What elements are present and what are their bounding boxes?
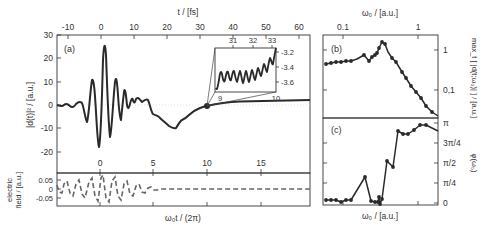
bottom-tick-label: 5: [151, 158, 156, 168]
electric-field-curve: [57, 175, 310, 202]
top-tick-label: 30: [195, 22, 205, 32]
c-right-tick-label: π/4: [443, 178, 456, 188]
phase-curve: [326, 125, 438, 204]
left-tick-label: 0: [48, 100, 53, 110]
bottom-axis-title: ω₀t / (2π): [165, 213, 201, 223]
max-dipole-curve: [326, 42, 438, 116]
field-panel-frame: [57, 173, 310, 206]
field-axis-title-line1: electric: [5, 178, 14, 202]
inset-bottom-tick: 9: [218, 94, 222, 103]
left-tick-label: 30: [44, 30, 54, 40]
top-tick-label: 50: [261, 22, 271, 32]
panel-label-c: (c): [331, 125, 342, 135]
left-tick-label: -10: [41, 123, 54, 133]
panel-a: -10 0 10 20 30 40 50 60 t / [fs] 30 20 1…: [25, 7, 310, 173]
left-axis-title: |d(t)|² / [a.u.]: [25, 82, 35, 128]
b-top-tick-label: 1: [416, 22, 421, 32]
b-top-axis-title: ω₀ / [a.u.]: [362, 8, 398, 18]
c-bottom-axis-title: ω₀ / [a.u.]: [362, 211, 398, 221]
c-right-tick-label: π/2: [443, 158, 456, 168]
panel-b: 0.1 1 ω₀ / [a.u.] 1 0,1 max_t [ |d(t;ω₀)…: [323, 8, 479, 118]
inset-top-tick: 31: [229, 36, 237, 45]
top-tick-label: 60: [294, 22, 304, 32]
panel-label-b: (b): [331, 44, 342, 54]
inset-connector: [207, 48, 215, 106]
figure: -10 0 10 20 30 40 50 60 t / [fs] 30 20 1…: [0, 0, 490, 231]
inset-bottom-tick: 10: [272, 94, 280, 103]
left-tick-label: 20: [44, 53, 54, 63]
c-right-tick-label: 3π/4: [443, 138, 461, 148]
top-tick-label: 10: [129, 22, 139, 32]
field-panel: 0.05 0 -0.05 electric field / [a.u.] ω₀t…: [5, 172, 310, 223]
top-axis-ticks: [68, 35, 299, 39]
left-tick-label: -20: [41, 147, 54, 157]
inset-top-tick: 32: [249, 36, 257, 45]
dipole-curve: [57, 46, 207, 147]
inset-right-tick: -3.6: [281, 78, 294, 87]
b-right-tick-label: 1: [443, 45, 448, 55]
b-right-axis-title: max_t [ |d(t;ω₀)| ] / [a.u.]: [470, 38, 479, 118]
top-tick-label: 0: [99, 22, 104, 32]
bottom-axis-ticks: [100, 169, 261, 173]
inset-top-tick: 33: [268, 36, 276, 45]
b-top-tick-label: 0.1: [337, 22, 349, 32]
bottom-tick-label: 15: [256, 158, 266, 168]
field-axis-ticks: [57, 173, 261, 206]
panel-c: π 3π/4 π/2 π/4 0 φ(ω₀) (c) ω₀ / [a.u.]: [323, 118, 479, 221]
inset-right-tick: -3.4: [281, 63, 294, 72]
top-tick-label: 40: [228, 22, 238, 32]
c-axis-ticks: [323, 123, 438, 205]
c-right-axis-title: φ(ω₀): [470, 154, 479, 173]
field-tick-label: 0.05: [38, 176, 53, 185]
top-tick-label: 20: [162, 22, 172, 32]
field-axis-title-line2: field / [a.u.]: [14, 172, 23, 209]
phase-markers: [324, 123, 428, 206]
inset: 31 32 33 -3.2 -3.4 -3.6 9 10: [215, 36, 294, 103]
left-axis-ticks: [57, 35, 61, 152]
top-axis-title: t / [fs]: [178, 7, 199, 17]
bottom-tick-label: 0: [98, 158, 103, 168]
b-right-tick-label: 0,1: [443, 85, 455, 95]
field-tick-label: -0.05: [36, 194, 53, 203]
panel-label-a: (a): [64, 44, 75, 54]
c-right-tick-label: 0: [443, 198, 448, 208]
c-right-tick-label: π: [443, 118, 449, 128]
bottom-tick-label: 10: [202, 158, 212, 168]
field-tick-label: 0: [49, 185, 53, 194]
left-tick-label: 10: [44, 77, 54, 87]
inset-right-tick: -3.2: [281, 48, 294, 57]
top-tick-label: -10: [62, 22, 75, 32]
